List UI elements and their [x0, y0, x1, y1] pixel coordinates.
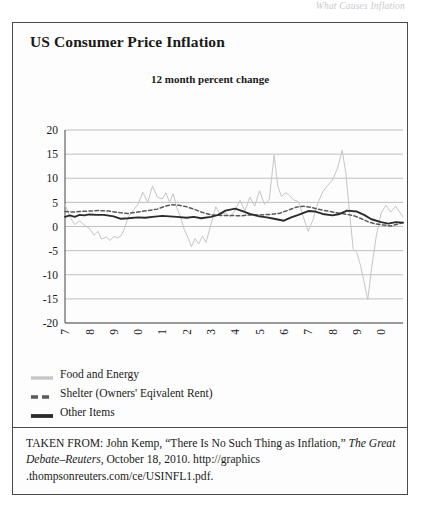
svg-text:2007: 2007 [302, 329, 314, 335]
svg-text:2006: 2006 [278, 329, 290, 335]
caption-lead: TAKEN FROM: John Kemp, “There Is No Such… [26, 437, 348, 450]
svg-text:2005: 2005 [254, 329, 266, 335]
legend-swatch-food-and-energy [31, 369, 53, 379]
x-axis-tick-label: 2003 [205, 329, 217, 335]
caption-divider [13, 427, 407, 428]
x-axis-tick-label: 2004 [229, 329, 241, 335]
svg-text:2010: 2010 [375, 329, 387, 335]
legend-item-shelter: Shelter (Owners' Eqivalent Rent) [31, 384, 371, 401]
y-axis-tick-label: -5 [48, 245, 58, 257]
legend-label-other-items: Other Items [60, 406, 115, 418]
y-axis-tick-label: 0 [52, 221, 58, 233]
legend-item-food-and-energy: Food and Energy [31, 365, 371, 382]
svg-text:1999: 1999 [108, 329, 120, 335]
figure-caption: TAKEN FROM: John Kemp, “There Is No Such… [26, 436, 397, 485]
y-axis-tick-label: 5 [52, 197, 58, 209]
y-axis-tick-label: -10 [43, 269, 59, 281]
x-axis-tick-label: 1997 [59, 329, 71, 335]
x-axis-tick-label: 2010 [375, 329, 387, 335]
x-axis-tick-label: 1999 [108, 329, 120, 335]
chart: 20151050-5-10-15-20199719981999200020012… [13, 95, 406, 335]
legend-label-shelter: Shelter (Owners' Eqivalent Rent) [60, 387, 213, 399]
x-axis-tick-label: 2006 [278, 329, 290, 335]
x-axis-tick-label: 1998 [84, 329, 96, 335]
figure-box: US Consumer Price Inflation 12 month per… [12, 22, 408, 495]
svg-text:2004: 2004 [229, 329, 241, 335]
y-axis-tick-label: -20 [43, 317, 59, 329]
svg-text:2000: 2000 [132, 329, 144, 335]
svg-text:1998: 1998 [84, 329, 96, 335]
svg-text:2001: 2001 [156, 329, 168, 335]
y-axis-tick-label: 10 [47, 172, 59, 184]
figure-title: US Consumer Price Inflation [30, 33, 225, 51]
legend-label-food-and-energy: Food and Energy [60, 368, 139, 380]
svg-text:2002: 2002 [181, 329, 193, 335]
y-axis-tick-label: 15 [47, 148, 59, 160]
x-axis-tick-label: 2000 [132, 329, 144, 335]
x-axis-tick-label: 2005 [254, 329, 266, 335]
x-axis-tick-label: 2001 [156, 329, 168, 335]
x-axis-tick-label: 2009 [351, 329, 363, 335]
chart-legend: Food and Energy Shelter (Owners' Eqivale… [31, 365, 371, 422]
running-header: What Causes Inflation [316, 1, 405, 11]
figure-subtitle: 12 month percent change [13, 73, 407, 85]
x-axis-tick-label: 2002 [181, 329, 193, 335]
legend-swatch-other-items [31, 407, 53, 417]
y-axis-tick-label: -15 [43, 293, 59, 305]
legend-item-other-items: Other Items [31, 403, 371, 420]
svg-text:2009: 2009 [351, 329, 363, 335]
x-axis-tick-label: 2007 [302, 329, 314, 335]
svg-text:1997: 1997 [59, 329, 71, 335]
series-line [65, 150, 403, 300]
legend-swatch-shelter [31, 388, 53, 398]
y-axis-tick-label: 20 [47, 124, 59, 136]
line-chart-svg: 20151050-5-10-15-20199719981999200020012… [13, 95, 406, 335]
svg-text:2003: 2003 [205, 329, 217, 335]
x-axis-tick-label: 2008 [327, 329, 339, 335]
svg-text:2008: 2008 [327, 329, 339, 335]
